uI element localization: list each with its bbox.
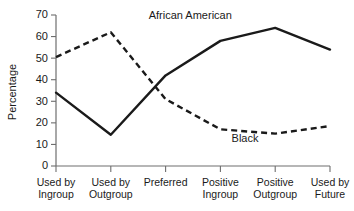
series-annotation: African American xyxy=(149,9,232,21)
x-tick-label-line: Outgroup xyxy=(89,188,133,200)
y-tick-label: 70 xyxy=(36,8,48,20)
series-annotation: Black xyxy=(232,132,259,144)
x-tick-label-line: Outgroup xyxy=(253,188,297,200)
y-axis: 010203040506070 xyxy=(36,8,56,171)
line-chart: 010203040506070 Percentage Used byIngrou… xyxy=(0,0,354,211)
x-tick-label-line: Positive xyxy=(202,176,239,188)
x-tick-label-line: Ingroup xyxy=(203,188,239,200)
x-tick-label: Used byOutgroup xyxy=(89,176,133,200)
x-tick-label-line: Used by xyxy=(311,176,350,188)
y-tick-label: 0 xyxy=(42,159,48,171)
series-line-black xyxy=(56,32,330,133)
x-tick-label: Used byIngroup xyxy=(37,176,76,200)
x-tick-label: Preferred xyxy=(144,176,188,188)
x-tick-label: Used byFuture xyxy=(311,176,350,200)
y-tick-group: 010203040506070 xyxy=(36,8,56,171)
x-tick-label-line: Preferred xyxy=(144,176,188,188)
y-axis-title: Percentage xyxy=(6,64,18,120)
y-tick-label: 10 xyxy=(36,138,48,150)
y-tick-label: 40 xyxy=(36,73,48,85)
x-tick-label-line: Used by xyxy=(37,176,76,188)
x-tick-label-group: Used byIngroupUsed byOutgroupPreferredPo… xyxy=(37,176,350,200)
y-tick-label: 50 xyxy=(36,52,48,64)
x-tick-label-line: Positive xyxy=(257,176,294,188)
x-tick-label-line: Ingroup xyxy=(38,188,74,200)
y-tick-label: 60 xyxy=(36,30,48,42)
y-tick-label: 30 xyxy=(36,95,48,107)
chart-canvas: 010203040506070 Percentage Used byIngrou… xyxy=(0,0,354,211)
x-axis xyxy=(56,166,330,172)
x-tick-label-line: Future xyxy=(315,188,346,200)
x-tick-group xyxy=(56,166,330,172)
series-group xyxy=(56,28,330,135)
x-tick-label-line: Used by xyxy=(92,176,131,188)
series-line-african-american xyxy=(56,28,330,135)
x-tick-label: PositiveOutgroup xyxy=(253,176,297,200)
y-tick-label: 20 xyxy=(36,116,48,128)
x-tick-label: PositiveIngroup xyxy=(202,176,239,200)
